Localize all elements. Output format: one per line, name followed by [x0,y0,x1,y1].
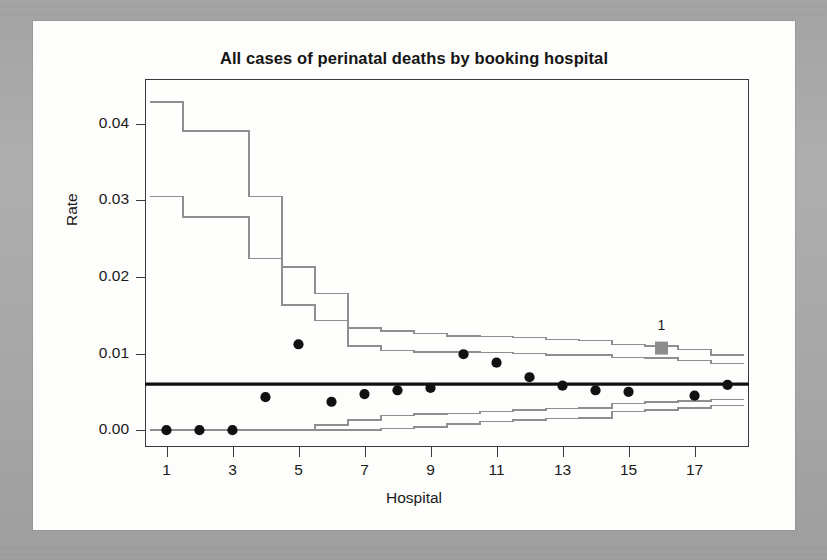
data-points [161,339,732,435]
y-axis-tick-mark [136,200,145,201]
data-point [458,349,468,359]
x-axis-tick-label: 3 [218,461,248,479]
y-axis-tick-label: 0.04 [59,114,129,132]
x-axis-tick-label: 17 [680,461,710,479]
screenshot-root: All cases of perinatal deaths by booking… [0,0,827,560]
x-axis-tick-label: 7 [350,461,380,479]
x-axis-tick-label: 11 [482,461,512,479]
scan-artifact [0,548,827,549]
data-point [722,380,732,390]
data-point [194,425,204,435]
data-point [590,385,600,395]
x-axis-tick-mark [629,447,630,457]
y-axis-tick-label: 0.03 [59,190,129,208]
flagged-hospital-label: 1 [650,317,674,333]
x-axis-tick-label: 1 [152,461,182,479]
x-axis-tick-label: 15 [614,461,644,479]
y-axis-tick-label: 0.00 [59,420,129,438]
scan-artifact [0,554,827,555]
control-limit-lower-99-8-limit [150,406,744,431]
y-axis-tick-label: 0.01 [59,344,129,362]
scan-artifact [0,14,827,15]
chart-title: All cases of perinatal deaths by booking… [33,49,795,68]
scan-artifact [0,6,827,7]
y-axis-tick-mark [136,430,145,431]
control-limit-lines [150,102,744,430]
x-axis-tick-mark [563,447,564,457]
x-axis-tick-mark [167,447,168,457]
data-point [293,339,303,349]
data-point [557,381,567,391]
data-point [524,372,534,382]
x-axis-tick-label: 5 [284,461,314,479]
funnel-plot-canvas [145,79,749,447]
data-point [425,383,435,393]
figure-paper: All cases of perinatal deaths by booking… [33,21,795,530]
flagged-marker [655,342,668,355]
data-point [161,425,171,435]
x-axis-tick-mark [497,447,498,457]
x-axis-tick-mark [365,447,366,457]
x-axis-tick-mark [233,447,234,457]
data-point [260,392,270,402]
y-axis-tick-mark [136,277,145,278]
flagged-hospital-marker [655,342,668,355]
y-axis-tick-mark [136,124,145,125]
y-axis-tick-label: 0.02 [59,267,129,285]
x-axis-tick-mark [299,447,300,457]
x-axis-tick-mark [695,447,696,457]
data-point [326,397,336,407]
data-point [227,425,237,435]
data-point [392,385,402,395]
data-point [359,389,369,399]
x-axis-tick-label: 9 [416,461,446,479]
x-axis-title: Hospital [33,489,795,507]
data-point [689,391,699,401]
x-axis-tick-label: 13 [548,461,578,479]
control-limit-upper-95-limit [150,196,744,363]
data-point [623,387,633,397]
x-axis-tick-mark [431,447,432,457]
data-point [491,358,501,368]
y-axis-tick-mark [136,354,145,355]
